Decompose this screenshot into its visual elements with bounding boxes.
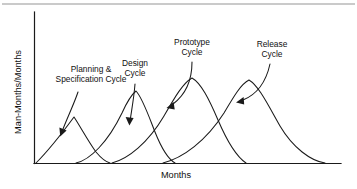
annotation-release-line1: Release	[257, 39, 288, 49]
annotation-design-line2: Cycle	[125, 68, 146, 78]
annotation-release-line2: Cycle	[262, 49, 283, 59]
annotation-planning-line2: Specification Cycle	[56, 74, 127, 84]
curve-release-cycle	[163, 80, 325, 163]
arrowhead-release	[236, 97, 244, 105]
curve-planning-specification-cycle	[36, 117, 110, 163]
annotation-planning-line1: Planning &	[71, 64, 112, 74]
leader-line-release	[243, 64, 270, 100]
arrowhead-prototype	[167, 102, 175, 110]
annotation-text-group: Planning & Specification Cycle Design Cy…	[56, 37, 288, 84]
leader-line-planning	[63, 92, 78, 129]
curve-design-cycle	[76, 91, 175, 163]
figure-container: Planning & Specification Cycle Design Cy…	[0, 0, 357, 189]
y-axis-title: Man-Months/Months	[13, 50, 23, 134]
chart-canvas: Planning & Specification Cycle Design Cy…	[0, 0, 357, 189]
curves-group	[36, 78, 325, 163]
annotation-prototype-line1: Prototype	[174, 37, 210, 47]
leader-line-design	[131, 84, 136, 118]
axes-group	[34, 12, 341, 164]
annotation-design-line1: Design	[122, 58, 148, 68]
x-axis-title: Months	[161, 170, 192, 180]
leader-line-prototype	[173, 62, 192, 104]
arrowhead-design	[126, 117, 134, 126]
annotation-prototype-line2: Cycle	[182, 47, 203, 57]
